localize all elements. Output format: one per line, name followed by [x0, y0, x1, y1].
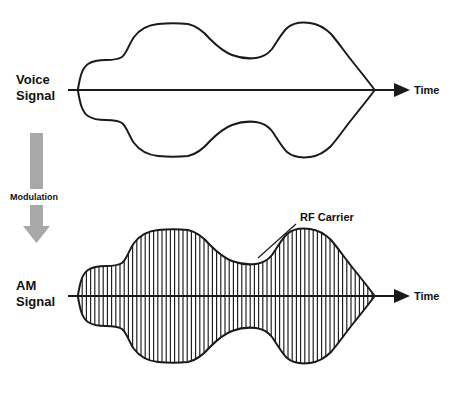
modulation-arrow-group: Modulation [10, 133, 58, 243]
voice-signal-label-line2: Signal [16, 88, 55, 103]
voice-signal-label-line1: Voice [16, 72, 50, 87]
modulation-label: Modulation [10, 192, 58, 202]
voice-signal-section: Voice Signal Time [16, 23, 439, 158]
down-arrow-icon-head [23, 226, 50, 243]
am-time-axis-label: Time [414, 290, 439, 302]
am-modulation-diagram: Voice Signal Time Modulation AM Signal [0, 0, 454, 395]
rf-carrier-label: RF Carrier [300, 211, 355, 223]
voice-envelope-lower [78, 91, 374, 157]
diagram-canvas: Voice Signal Time Modulation AM Signal [0, 0, 454, 395]
voice-time-axis-arrowhead [394, 83, 410, 97]
am-time-axis-arrowhead [394, 289, 410, 303]
down-arrow-icon-shaft-lower [30, 205, 43, 227]
down-arrow-icon-shaft-upper [30, 133, 43, 189]
voice-envelope-upper [78, 23, 374, 89]
voice-time-axis-label: Time [414, 84, 439, 96]
am-signal-section: AM Signal Time RF Carrier [16, 211, 439, 368]
am-signal-label-line1: AM [16, 278, 36, 293]
am-signal-label-line2: Signal [16, 294, 55, 309]
